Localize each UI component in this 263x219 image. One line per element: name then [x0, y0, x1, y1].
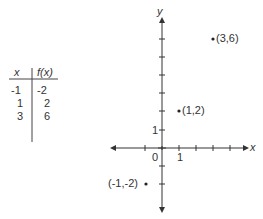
point-label: (1,2) — [182, 104, 205, 116]
y-axis-label: y — [157, 5, 163, 17]
data-point — [144, 182, 147, 185]
x-tick-label: 1 — [177, 151, 183, 163]
data-point — [211, 37, 214, 40]
origin-label: 0 — [152, 151, 158, 163]
x-axis-label: x — [250, 141, 256, 153]
point-label: (3,6) — [216, 32, 239, 44]
point-label: (-1,-2) — [108, 177, 138, 189]
data-point — [177, 109, 180, 112]
y-tick-label: 1 — [152, 124, 158, 136]
